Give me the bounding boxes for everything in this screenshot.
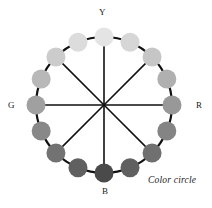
axis-label-green: G: [8, 101, 15, 110]
hue-swatch: [46, 47, 65, 66]
hue-swatch: [32, 122, 51, 141]
hue-swatch: [95, 164, 114, 183]
hue-swatch: [68, 158, 87, 177]
hue-swatch: [95, 28, 114, 47]
hue-swatch: [143, 144, 162, 163]
hue-swatch: [46, 144, 65, 163]
spoke-line: [104, 105, 152, 153]
hue-swatch: [157, 122, 176, 141]
spoke-line: [56, 57, 104, 105]
hue-swatch: [121, 33, 140, 52]
axis-label-red: R: [196, 101, 202, 110]
spoke-line: [56, 105, 104, 153]
spoke-line: [104, 57, 152, 105]
color-circle-figure: Y R B G Color circle: [0, 0, 212, 208]
hue-swatch: [121, 158, 140, 177]
hue-swatch: [163, 96, 182, 115]
hue-swatch: [157, 69, 176, 88]
hue-swatch: [27, 96, 46, 115]
hue-swatch: [143, 47, 162, 66]
hue-swatch: [68, 33, 87, 52]
axis-label-blue: B: [102, 187, 108, 196]
axis-label-yellow: Y: [99, 8, 106, 17]
figure-caption: Color circle: [148, 175, 196, 185]
hue-swatch: [32, 69, 51, 88]
